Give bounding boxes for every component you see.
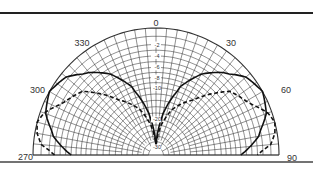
radial-label: -4 (155, 53, 160, 59)
polar-radiation-chart: 2703003300306090-2-4-6-8-10-20-30 (0, 0, 313, 173)
angle-label-60: 60 (281, 85, 291, 95)
grid-spoke (165, 32, 188, 120)
radial-label: -8 (155, 75, 160, 81)
grid-spoke (166, 58, 236, 144)
radial-label: -6 (155, 64, 160, 70)
grid-spoke (167, 73, 250, 145)
angle-label-0: 0 (153, 18, 158, 28)
grid-spoke (62, 73, 145, 145)
grid-spoke (95, 45, 153, 148)
radial-label: -30 (153, 144, 161, 150)
grid-spoke (162, 92, 262, 152)
grid-spoke (160, 45, 218, 148)
angle-label-270: 270 (18, 152, 33, 162)
radial-label: -2 (155, 42, 160, 48)
angle-label-30: 30 (226, 38, 236, 48)
radial-label: -10 (153, 85, 161, 91)
grid-spoke (77, 58, 147, 144)
angle-label-330: 330 (74, 38, 89, 48)
grid-spoke (50, 92, 150, 152)
angle-label-90: 90 (287, 153, 297, 163)
angle-label-300: 300 (30, 85, 45, 95)
radial-label: -20 (153, 116, 161, 122)
